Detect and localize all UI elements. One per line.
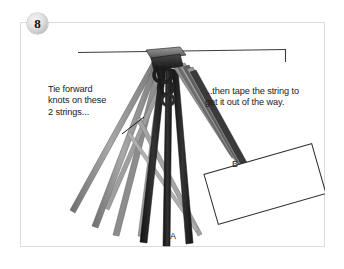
string-dark-right bbox=[172, 69, 193, 244]
tape-card-b bbox=[204, 144, 325, 225]
figure-page: 8 bbox=[0, 0, 344, 269]
illustration-canvas bbox=[20, 22, 325, 247]
tape-card-rect bbox=[204, 144, 325, 225]
taped-strand-6 bbox=[190, 70, 250, 170]
string-diagram-svg bbox=[20, 22, 325, 247]
part-label-a: A bbox=[170, 231, 176, 241]
caption-left: Tie forward knots on these 2 strings... bbox=[48, 84, 132, 118]
step-number-badge: 8 bbox=[27, 13, 48, 34]
caption-right: ...then tape the string to get it out of… bbox=[205, 86, 323, 109]
part-label-b: B bbox=[232, 159, 238, 169]
